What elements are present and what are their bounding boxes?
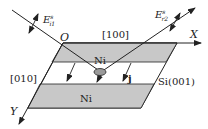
origin-label: O [60, 31, 69, 44]
x-axis-label: X [189, 28, 199, 41]
incident-polarization-arrow [29, 14, 38, 33]
reflected-polarization-arrow [170, 13, 180, 31]
diagram: O X Y [100] [010] Ni Ni Si(001) j Esi1 E… [0, 0, 208, 129]
ni-strip-top [52, 43, 177, 62]
laser-spot [94, 69, 106, 76]
incident-field-label: Esi1 [42, 13, 55, 27]
reflected-field-label: Esr2 [154, 8, 168, 22]
y-axis-label: Y [10, 105, 19, 118]
direction-010-label: [010] [10, 73, 37, 84]
ni-label-bottom: Ni [80, 93, 92, 104]
substrate-label: Si(001) [158, 76, 195, 87]
direction-100-label: [100] [102, 29, 129, 40]
diagram-svg: O X Y [100] [010] Ni Ni Si(001) j Esi1 E… [0, 0, 208, 129]
ni-label-top: Ni [94, 55, 106, 66]
current-label: j [127, 73, 132, 84]
